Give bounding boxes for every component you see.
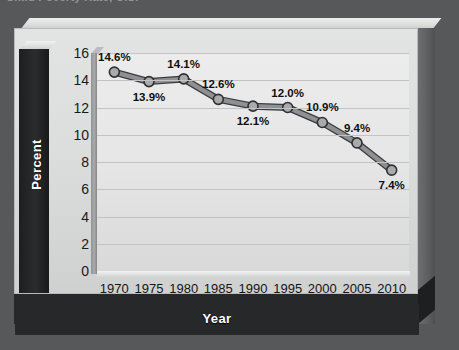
gridline <box>97 135 409 136</box>
y-tick-label: 14 <box>73 72 89 88</box>
gridline <box>97 53 409 54</box>
data-point-label: 9.4% <box>344 122 370 134</box>
y-tick-label: 2 <box>81 236 89 252</box>
y-tick-label: 16 <box>73 45 89 61</box>
gridline <box>97 80 409 81</box>
data-point-marker <box>387 165 397 175</box>
data-point-marker <box>248 101 258 111</box>
y-tick-label: 8 <box>81 154 89 170</box>
x-axis-title-band: Year <box>15 305 419 335</box>
data-point-label: 7.4% <box>379 179 405 191</box>
gridline <box>97 108 409 109</box>
data-point-marker <box>144 77 154 87</box>
data-point-marker <box>352 138 362 148</box>
data-point-marker <box>109 67 119 77</box>
x-tick-label: 1985 <box>204 281 233 296</box>
chart-face-panel: Percent 0246810121416 14.6%13.9%14.1%12.… <box>14 28 418 294</box>
y-tick-label: 0 <box>81 263 89 279</box>
chart-3d-block: Percent 0246810121416 14.6%13.9%14.1%12.… <box>14 18 434 324</box>
y-tick-label: 6 <box>81 181 89 197</box>
gridline <box>97 162 409 163</box>
plot-area: 14.6%13.9%14.1%12.6%12.1%12.0%10.9%9.4%7… <box>97 53 409 271</box>
gridline <box>97 217 409 218</box>
y-axis-tick-labels: 0246810121416 <box>51 29 93 295</box>
data-point-label: 12.0% <box>271 87 304 99</box>
y-axis-title: Percent <box>29 55 44 275</box>
data-point-label: 14.1% <box>167 58 200 70</box>
y-tick-label: 12 <box>73 100 89 116</box>
gridline <box>97 189 409 190</box>
data-point-label: 13.9% <box>133 91 166 103</box>
data-point-marker <box>317 117 327 127</box>
y-tick-label: 4 <box>81 209 89 225</box>
x-tick-label: 2010 <box>377 281 406 296</box>
x-axis-title: Year <box>15 311 419 326</box>
data-point-marker <box>179 74 189 84</box>
x-axis-tick-labels: 197019751980198519901995200020052010 <box>97 281 413 303</box>
x-tick-label: 1975 <box>135 281 164 296</box>
y-axis-title-panel: Percent <box>19 49 49 293</box>
x-tick-label: 1980 <box>169 281 198 296</box>
data-point-label: 12.6% <box>202 78 235 90</box>
x-tick-label: 2000 <box>308 281 337 296</box>
top-caption: Child Poverty Rate, U.S. <box>6 0 139 3</box>
x-tick-label: 1990 <box>239 281 268 296</box>
data-point-label: 12.1% <box>237 115 270 127</box>
gridline <box>97 244 409 245</box>
data-point-marker <box>213 94 223 104</box>
x-axis-floor <box>97 271 410 277</box>
x-tick-label: 2005 <box>343 281 372 296</box>
x-tick-label: 1995 <box>273 281 302 296</box>
x-tick-label: 1970 <box>100 281 129 296</box>
data-point-label: 14.6% <box>98 51 131 63</box>
data-point-label: 10.9% <box>306 101 339 113</box>
y-tick-label: 10 <box>73 127 89 143</box>
